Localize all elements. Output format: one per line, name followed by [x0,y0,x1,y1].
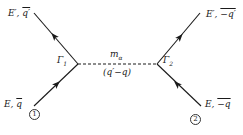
particle-marker-1: 1 [29,109,40,120]
incoming-label-1: E, q [4,100,22,109]
particle-marker-2: 2 [190,114,201,125]
propagator-momentum-label: (q′−q) [103,68,131,77]
propagator-mass-label: mα [110,50,123,61]
incoming-leg-2 [157,64,201,106]
vertex-label-1: Γ1 [57,56,67,67]
incoming-label-2: E, −q [205,100,231,109]
outgoing-label-2: E′, −q′ [206,10,236,19]
outgoing-label-1: E′, q′ [8,9,30,18]
incoming-leg-1 [34,64,78,106]
vertex-label-2: Γ2 [163,56,173,67]
outgoing-leg-1 [34,13,78,64]
